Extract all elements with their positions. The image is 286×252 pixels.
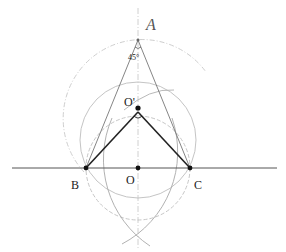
- geometry-diagram: A 45° O' B O C: [0, 0, 286, 252]
- point-o: [136, 166, 141, 171]
- angle-arc-a: [135, 47, 141, 49]
- diagram-canvas: A 45° O' B O C: [0, 0, 286, 252]
- point-b: [84, 166, 89, 171]
- label-o: O: [126, 173, 135, 187]
- point-a: [137, 39, 140, 42]
- label-c: C: [194, 178, 202, 192]
- label-o-prime: O': [124, 95, 135, 109]
- point-c: [188, 166, 193, 171]
- label-b: B: [71, 178, 79, 192]
- angle-label: 45°: [128, 53, 139, 62]
- segment-ac: [138, 40, 190, 168]
- label-a: A: [145, 16, 156, 33]
- point-o-prime: [135, 105, 140, 110]
